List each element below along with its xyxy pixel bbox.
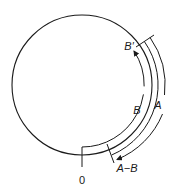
b-arc [82,51,144,147]
arc-diagram-svg [0,0,171,193]
b-prime-tick [136,35,154,47]
diagram: B′ B A A−B 0 [0,0,171,193]
label-b: B [133,105,140,116]
main-circle [12,15,152,155]
label-a: A [154,100,161,111]
a-minus-b-tick [107,144,114,163]
label-b-prime: B′ [124,41,133,52]
label-origin: 0 [79,175,85,186]
a-arc-lower [117,114,163,160]
label-a-minus-b: A−B [116,163,137,174]
